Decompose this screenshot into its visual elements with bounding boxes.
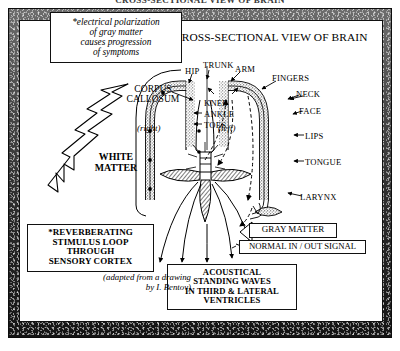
electrical-line-2: of gray matter	[54, 27, 178, 37]
homunculus-label-arm: ARM	[235, 64, 255, 74]
page-title: CROSS-SECTIONAL VIEW OF BRAIN	[0, 0, 400, 5]
attribution-line-1: (adapted from	[103, 272, 153, 282]
reverb-line-4: SENSORY CORTEX	[30, 257, 151, 267]
homunculus-label-neck: NECK	[296, 89, 320, 99]
label-white-matter: WHITE MATTER	[88, 152, 144, 174]
callout-electrical-polarization: *electrical polarization of gray matter …	[50, 12, 182, 63]
legend-gray-matter-label: GRAY MATTER	[252, 225, 334, 235]
homunculus-label-trunk: TRUNK	[203, 60, 234, 70]
page-title-strip: CROSS-SECTIONAL VIEW OF BRAIN	[0, 0, 400, 7]
acoustical-line-4: VENTRICLES	[170, 296, 294, 305]
homunculus-label-tongue: TONGUE	[305, 157, 341, 167]
homunculus-label-hip: HIP	[185, 66, 199, 76]
electrical-line-1: *electrical polarization	[54, 17, 178, 27]
heading-line-1: CROSS-SECTIONAL VIEW	[174, 31, 311, 43]
homunculus-label-larynx: LARYNX	[300, 192, 337, 202]
homunculus-label-toes: TOES	[204, 120, 226, 130]
corpus-line-2: CALLOSUM	[127, 93, 180, 104]
homunculus-label-knee: KNEE	[204, 98, 228, 108]
electrical-line-4: of symptoms	[54, 47, 178, 57]
homunculus-label-ankle: ANKLE	[204, 109, 234, 119]
white-line-2: MATTER	[95, 162, 137, 173]
homunculus-label-lips: LIPS	[305, 131, 323, 141]
legend-normal-signal-label: NORMAL IN / OUT SIGNAL	[242, 242, 363, 251]
white-line-1: WHITE	[99, 151, 133, 162]
diagram-heading: CROSS-SECTIONAL VIEW OF BRAIN	[174, 31, 368, 43]
figure-page: CROSS-SECTIONAL VIEW OF BRAIN	[0, 0, 400, 351]
corpus-line-1: CORPUS	[134, 83, 171, 94]
electrical-line-3: causes progression	[54, 37, 178, 47]
label-hemisphere-right: (right)	[137, 124, 161, 134]
heading-line-2: OF BRAIN	[314, 31, 368, 43]
callout-reverberating-loop: *REVERBERATING STIMULUS LOOP THROUGH SEN…	[27, 224, 154, 272]
attribution-note: (adapted from a drawing by I. Bentov)	[103, 272, 191, 292]
attribution-line-3: I. Bentov)	[156, 282, 191, 292]
label-corpus-callosum: CORPUS CALLOSUM	[120, 84, 186, 105]
homunculus-label-fingers: FINGERS	[272, 73, 309, 83]
legend-gray-matter: GRAY MATTER	[249, 223, 337, 238]
legend-normal-signal: NORMAL IN / OUT SIGNAL	[239, 240, 366, 254]
homunculus-label-face: FACE	[299, 106, 321, 116]
